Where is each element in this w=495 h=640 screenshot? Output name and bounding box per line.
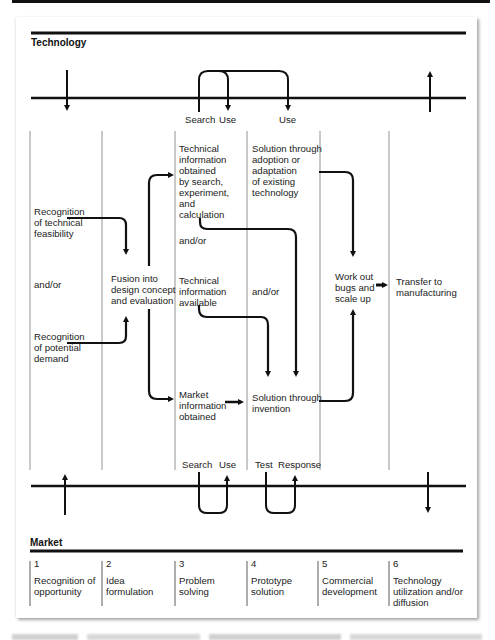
text-line: Transfer to [396, 276, 457, 287]
text-line: and/or [252, 286, 279, 297]
text-line: Market [179, 389, 226, 400]
node-transfer: Transfer tomanufacturing [396, 276, 457, 298]
text-line: information [179, 400, 226, 411]
text-line: manufacturing [396, 287, 457, 298]
text-line: Recognition [34, 331, 85, 342]
stage-number: 2 [106, 558, 111, 569]
text-line: Solution through [252, 143, 322, 154]
stage-number: 3 [179, 558, 184, 569]
text-line: obtained [179, 411, 226, 422]
node-potential-demand: Recognitionof potentialdemand [34, 331, 85, 364]
stage-number: 4 [251, 558, 256, 569]
text-line: and/or [34, 279, 61, 290]
tech-search-use2-arch [219, 71, 288, 108]
node-and-or-2: and/or [179, 235, 206, 246]
stage-number: 6 [393, 558, 398, 569]
node-technical-feasibility: Recognitionof technicalfeasibility [34, 206, 85, 239]
market-search-use-loop [199, 472, 227, 513]
text-line: and evaluation [111, 295, 176, 306]
text-line: of existing [252, 176, 322, 187]
text-line: Recognition of [34, 575, 95, 586]
node-and-or-1: and/or [34, 279, 61, 290]
stage-label: Commercialdevelopment [322, 575, 377, 597]
text-line: Technology [393, 575, 463, 586]
node-technical-info-available: Technicalinformationavailable [179, 275, 226, 308]
text-line: by search, [179, 176, 229, 187]
text-line: solution [251, 586, 292, 597]
node-fusion: Fusion intodesign conceptand evaluation [111, 273, 176, 306]
market-response-label: Response [278, 459, 321, 470]
arrow-fusion-to-market-info [149, 309, 171, 399]
text-line: Prototype [251, 575, 292, 586]
tech-use-label-2: Use [279, 114, 296, 125]
node-and-or-3: and/or [252, 286, 279, 297]
arrow-invention-to-workout [319, 312, 353, 401]
text-line: available [179, 297, 226, 308]
text-line: adaptation [252, 165, 322, 176]
text-line: Fusion into [111, 273, 176, 284]
text-line: Technical [179, 275, 226, 286]
market-test-label: Test [255, 459, 273, 470]
text-line: design concept [111, 284, 176, 295]
node-adoption: Solution throughadoption oradaptationof … [252, 143, 322, 198]
text-line: Solution through [252, 392, 322, 403]
text-line: and/or [179, 235, 206, 246]
text-line: scale up [335, 293, 374, 304]
text-line: obtained [179, 165, 229, 176]
text-line: and [179, 198, 229, 209]
text-line: Technical [179, 143, 229, 154]
text-line: feasibility [34, 228, 85, 239]
stage-label: Technologyutilization and/ordiffusion [393, 575, 463, 608]
stage-label: Recognition ofopportunity [34, 575, 95, 597]
text-line: Problem [179, 575, 215, 586]
cropped-caption [12, 634, 482, 640]
text-line: invention [252, 403, 322, 414]
market-test-response-loop [266, 472, 295, 513]
text-line: formulation [106, 586, 153, 597]
text-line: bugs and [335, 282, 374, 293]
text-line: technology [252, 187, 322, 198]
market-header: Market [30, 537, 62, 548]
text-line: development [322, 586, 377, 597]
text-line: of potential [34, 342, 85, 353]
text-line: Work out [335, 271, 374, 282]
stage-number: 5 [322, 558, 327, 569]
arrow-fusion-to-tech-info [149, 175, 171, 266]
text-line: diffusion [393, 597, 463, 608]
stage-number: 1 [34, 558, 39, 569]
text-line: Idea [106, 575, 153, 586]
text-line: Recognition [34, 206, 85, 217]
text-line: experiment, [179, 187, 229, 198]
text-line: information [179, 154, 229, 165]
node-market-info: Marketinformationobtained [179, 389, 226, 422]
tech-search-use-arch [199, 71, 228, 112]
node-work-out: Work outbugs andscale up [335, 271, 374, 304]
stage-label: Ideaformulation [106, 575, 153, 597]
market-use-label: Use [219, 459, 236, 470]
stage-label: Problemsolving [179, 575, 215, 597]
arrow-adoption-to-workout [319, 172, 353, 254]
technology-header: Technology [31, 37, 86, 48]
text-line: calculation [179, 209, 229, 220]
arrow-available-to-invention [199, 305, 268, 374]
tech-use-label: Use [219, 114, 236, 125]
text-line: Commercial [322, 575, 377, 586]
tech-search-label: Search [185, 114, 215, 125]
innovation-process-diagram [0, 0, 495, 640]
text-line: of technical [34, 217, 85, 228]
text-line: demand [34, 353, 85, 364]
text-line: adoption or [252, 154, 322, 165]
node-technical-info-obtained: Technicalinformationobtainedby search,ex… [179, 143, 229, 220]
market-search-label: Search [182, 459, 212, 470]
text-line: opportunity [34, 586, 95, 597]
text-line: information [179, 286, 226, 297]
text-line: solving [179, 586, 215, 597]
stage-label: Prototypesolution [251, 575, 292, 597]
text-line: utilization and/or [393, 586, 463, 597]
node-invention: Solution throughinvention [252, 392, 322, 414]
